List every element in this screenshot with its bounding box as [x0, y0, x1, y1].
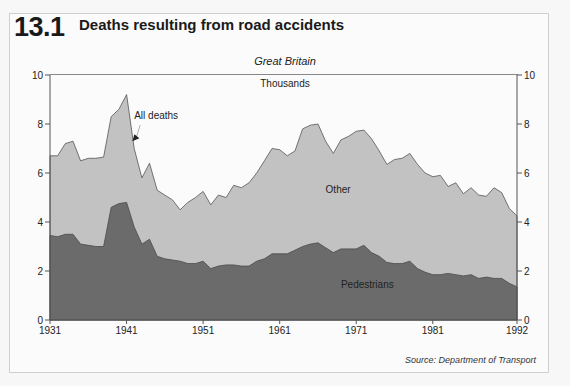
- y-tick-label-left: 10: [32, 70, 44, 81]
- x-tick-label: 1951: [192, 325, 215, 336]
- plot-areas: [50, 95, 517, 320]
- y-tick-label-right: 0: [524, 315, 530, 326]
- y-tick-label-right: 10: [524, 70, 536, 81]
- arrow-head-icon: [132, 134, 139, 141]
- x-tick-label: 1981: [422, 325, 445, 336]
- arrow-line: [136, 125, 140, 137]
- y-tick-label-right: 2: [524, 266, 530, 277]
- x-tick-label: 1931: [39, 325, 62, 336]
- source-note: Source: Department of Transport: [405, 355, 536, 365]
- x-tick-label: 1941: [115, 325, 138, 336]
- y-tick-label-right: 4: [524, 217, 530, 228]
- area-chart: 0022446688101019311941195119611971198119…: [0, 0, 570, 386]
- x-tick-label: 1971: [345, 325, 368, 336]
- annotation-pedestrians: Pedestrians: [341, 279, 394, 290]
- y-tick-label-right: 6: [524, 168, 530, 179]
- y-tick-label-left: 2: [37, 266, 43, 277]
- y-tick-label-right: 8: [524, 119, 530, 130]
- y-tick-label-left: 0: [37, 315, 43, 326]
- y-tick-label-left: 4: [37, 217, 43, 228]
- x-tick-label: 1961: [269, 325, 292, 336]
- x-tick-label: 1992: [506, 325, 529, 336]
- y-tick-label-left: 8: [37, 119, 43, 130]
- y-tick-label-left: 6: [37, 168, 43, 179]
- annotation-all-deaths: All deaths: [134, 110, 178, 121]
- annotation-other: Other: [326, 184, 352, 195]
